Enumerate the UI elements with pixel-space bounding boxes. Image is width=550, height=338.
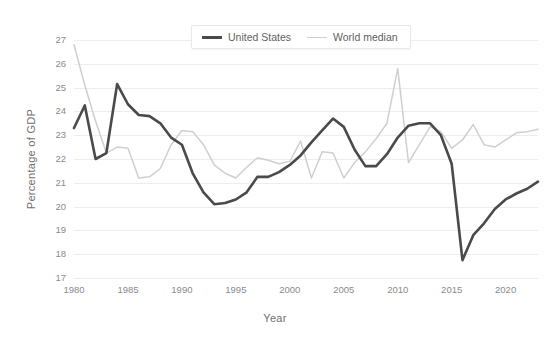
legend-item-united-states[interactable]: United States (202, 31, 291, 43)
x-tick-label: 2010 (378, 284, 418, 295)
legend: United States World median (191, 25, 411, 49)
x-tick-label: 1985 (108, 284, 148, 295)
y-axis-title: Percentage of GDP (25, 109, 37, 210)
legend-swatch-world-median (307, 37, 327, 38)
y-tick-label: 24 (42, 105, 66, 116)
x-tick-label: 2015 (432, 284, 472, 295)
y-tick-label: 23 (42, 129, 66, 140)
x-tick-label: 2000 (270, 284, 310, 295)
y-tick-label: 19 (42, 224, 66, 235)
x-tick-label: 2005 (324, 284, 364, 295)
series-line-united-states (74, 84, 538, 260)
y-axis-title-wrap: Percentage of GDP (24, 40, 38, 278)
x-tick-label: 2020 (486, 284, 526, 295)
y-tick-label: 22 (42, 153, 66, 164)
x-axis-title: Year (0, 312, 550, 324)
gridline (74, 278, 538, 279)
legend-label-united-states: United States (228, 31, 291, 43)
y-tick-label: 18 (42, 248, 66, 259)
plot-area (74, 40, 538, 278)
legend-label-world-median: World median (333, 31, 398, 43)
series-canvas (74, 40, 538, 278)
legend-item-world-median[interactable]: World median (307, 31, 398, 43)
x-tick-label: 1990 (162, 284, 202, 295)
y-tick-label: 27 (42, 34, 66, 45)
legend-swatch-united-states (202, 36, 222, 39)
y-tick-label: 25 (42, 82, 66, 93)
x-tick-label: 1995 (216, 284, 256, 295)
line-chart: 1718192021222324252627 19801985199019952… (0, 0, 550, 338)
series-line-world-median (74, 45, 538, 178)
y-tick-label: 26 (42, 58, 66, 69)
y-tick-label: 17 (42, 272, 66, 283)
y-tick-label: 20 (42, 201, 66, 212)
y-tick-label: 21 (42, 177, 66, 188)
x-tick-label: 1980 (54, 284, 94, 295)
